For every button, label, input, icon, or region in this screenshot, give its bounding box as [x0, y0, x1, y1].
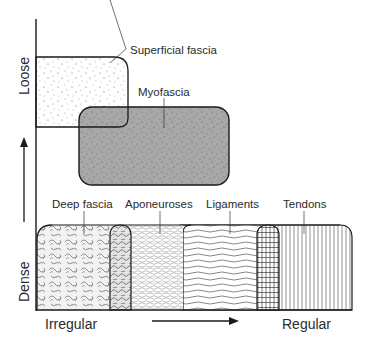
dense-axis-label: Dense — [16, 261, 32, 302]
myofascia-region — [79, 107, 229, 185]
ligaments-label: Ligaments — [206, 198, 259, 210]
irregular-axis-label: Irregular — [45, 316, 97, 332]
tendons-label: Tendons — [283, 198, 327, 210]
arrow-up-icon — [20, 137, 28, 147]
deep-fascia-region — [37, 225, 118, 310]
superficial-fascia-label: Superficial fascia — [130, 44, 218, 56]
deep-fascia-label: Deep fascia — [52, 198, 113, 210]
deep-aponeurosis-transition — [110, 225, 131, 310]
superficial-leader — [110, 0, 126, 49]
loose-axis-label: Loose — [16, 57, 32, 95]
dense-band — [36, 225, 352, 310]
arrow-right-icon — [229, 317, 239, 325]
regular-axis-label: Regular — [282, 316, 331, 332]
fascia-diagram: Superficial fascia Myofascia Deep fascia… — [0, 0, 371, 350]
myofascia-label: Myofascia — [138, 86, 190, 98]
aponeuroses-label: Aponeuroses — [125, 198, 193, 210]
